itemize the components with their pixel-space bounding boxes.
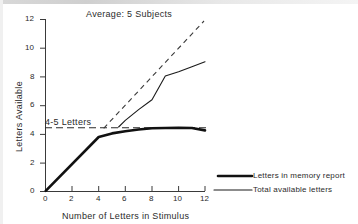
x-tick-label-6: 6 — [122, 194, 126, 203]
y-tick-label-2: 2 — [30, 158, 34, 167]
x-tick-label-10: 10 — [173, 194, 182, 203]
y-axis-ticks — [40, 20, 45, 192]
threshold-annotation-label: 4-5 Letters — [45, 117, 91, 127]
x-axis-ticks — [46, 186, 206, 191]
legend-label-total-available: Total available letters — [253, 185, 332, 194]
legend-label-memory-report: Letters in memory report — [253, 171, 345, 180]
y-tick-label-6: 6 — [30, 100, 34, 109]
y-tick-label-0: 0 — [30, 186, 34, 195]
y-tick-label-10: 10 — [25, 43, 34, 52]
y-tick-label-4: 4 — [30, 129, 34, 138]
x-tick-label-8: 8 — [149, 194, 153, 203]
legend-swatches — [214, 176, 252, 190]
y-tick-label-8: 8 — [30, 72, 34, 81]
identity-dashed-line — [104, 21, 204, 128]
x-tick-label-2: 2 — [69, 194, 73, 203]
y-tick-label-12: 12 — [25, 14, 34, 23]
x-tick-label-0: 0 — [43, 194, 47, 203]
x-axis-title: Number of Letters in Stimulus — [62, 211, 189, 221]
x-tick-label-12: 12 — [200, 194, 209, 203]
chart-figure: Average: 5 Subjects Letters Available Nu… — [0, 0, 358, 224]
chart-title: Average: 5 Subjects — [86, 9, 172, 19]
x-tick-label-4: 4 — [96, 194, 100, 203]
y-axis-title: Letters Available — [14, 81, 24, 152]
series-letters-in-memory-report — [46, 128, 205, 191]
series-total-available-letters — [119, 62, 205, 127]
